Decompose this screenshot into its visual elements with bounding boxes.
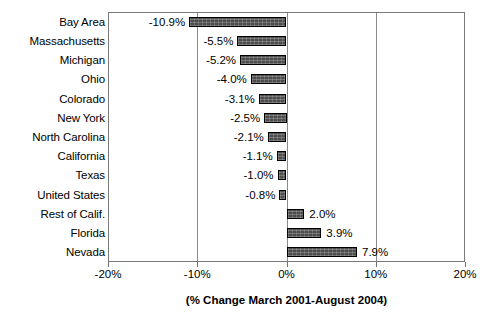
x-tick [287,262,288,267]
x-tick [197,262,198,267]
x-axis-ticks: -20%-10%0%10%20% [108,262,465,284]
x-tick-label: -20% [78,268,138,281]
horizontal-bar-chart: Bay AreaMassachusettsMichiganOhioColorad… [0,0,487,320]
value-label: -5.5% [203,35,233,47]
value-label: 2.0% [309,208,335,220]
value-label: -0.8% [245,189,275,201]
x-tick [108,262,109,267]
value-label: -5.2% [206,54,236,66]
x-tick-label: -10% [167,268,227,281]
x-axis-title: (% Change March 2001-August 2004) [108,294,465,306]
value-label: 7.9% [362,246,388,258]
value-label: -1.0% [244,169,274,181]
x-tick-label: 10% [346,268,406,281]
value-label: 3.9% [326,227,352,239]
x-tick-label: 0% [257,268,317,281]
value-label: -3.1% [225,93,255,105]
x-tick [465,262,466,267]
x-tick [376,262,377,267]
value-label: -4.0% [217,73,247,85]
value-label: -1.1% [243,150,273,162]
value-label: -2.5% [230,112,260,124]
value-label: -2.1% [234,131,264,143]
value-label: -10.9% [149,16,185,28]
data-value-labels: -10.9%-5.5%-5.2%-4.0%-3.1%-2.5%-2.1%-1.1… [0,12,487,262]
x-tick-label: 20% [435,268,487,281]
